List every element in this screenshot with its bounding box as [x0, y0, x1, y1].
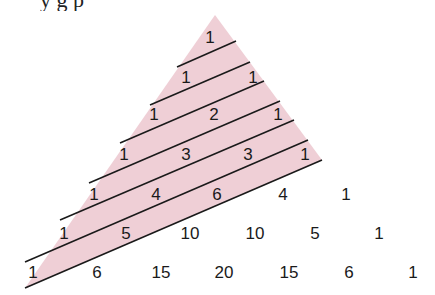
- pascal-entry-r2-c0: 1: [149, 105, 158, 124]
- pascal-entry-r5-c3: 10: [246, 224, 265, 243]
- pascal-entry-r6-c2: 15: [152, 263, 171, 282]
- pascal-entry-r5-c1: 5: [121, 224, 130, 243]
- pascal-entry-r4-c0: 1: [89, 185, 98, 204]
- pascal-entry-r4-c2: 6: [212, 185, 221, 204]
- pascal-entry-r4-c3: 4: [278, 185, 287, 204]
- pascal-entry-r4-c4: 1: [341, 185, 350, 204]
- pascal-entry-r5-c5: 1: [374, 224, 383, 243]
- pascal-entry-r3-c0: 1: [119, 145, 128, 164]
- pascal-entry-r2-c2: 1: [273, 105, 282, 124]
- pascal-entry-r0-c0: 1: [205, 28, 214, 47]
- pascal-entry-r3-c3: 1: [300, 145, 309, 164]
- pascal-entry-r5-c0: 1: [59, 224, 68, 243]
- pascal-entry-r6-c5: 6: [344, 263, 353, 282]
- pascal-entry-r2-c1: 2: [209, 105, 218, 124]
- shaded-triangle-region: [25, 15, 322, 288]
- pascal-entry-r6-c4: 15: [280, 263, 299, 282]
- pascal-entry-r5-c4: 5: [310, 224, 319, 243]
- pascal-entry-r3-c1: 3: [181, 145, 190, 164]
- pascal-entry-r1-c1: 1: [248, 68, 257, 87]
- pascal-entry-r6-c0: 1: [28, 263, 37, 282]
- pascal-entry-r6-c6: 1: [408, 263, 417, 282]
- pascal-entry-r6-c1: 6: [92, 263, 101, 282]
- pascal-entry-r6-c3: 20: [215, 263, 234, 282]
- pascal-entry-r1-c0: 1: [181, 68, 190, 87]
- pascal-triangle-diagram: 111121133114641151010511615201561: [0, 0, 435, 295]
- pascal-entry-r5-c2: 10: [181, 224, 200, 243]
- pascal-entry-r4-c1: 4: [151, 185, 160, 204]
- pascal-entry-r3-c2: 3: [243, 145, 252, 164]
